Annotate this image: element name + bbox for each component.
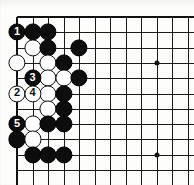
move-number-label: 1	[14, 27, 20, 38]
stone-white-move-4[interactable]: 4	[24, 85, 41, 102]
move-number-label: 4	[29, 88, 35, 99]
grid-line-vertical	[188, 17, 189, 185]
grid-line-horizontal	[17, 170, 194, 171]
move-number-label: 2	[14, 88, 20, 99]
stone-white[interactable]	[8, 54, 25, 71]
stone-black[interactable]	[70, 39, 87, 56]
stone-black[interactable]	[70, 70, 87, 87]
grid-line-vertical	[141, 17, 142, 185]
stone-black-move-1[interactable]: 1	[8, 24, 25, 41]
move-number-label: 5	[14, 118, 20, 129]
star-point	[154, 60, 159, 65]
grid-line-horizontal	[17, 139, 194, 140]
grid-line-vertical	[110, 17, 111, 185]
grid-line-vertical	[172, 17, 173, 185]
star-point	[154, 152, 159, 157]
grid-line-vertical	[95, 17, 96, 185]
stone-black[interactable]	[55, 116, 72, 133]
grid-line-vertical	[126, 17, 127, 185]
grid-line-vertical	[157, 17, 158, 185]
move-number-label: 3	[29, 72, 35, 83]
stone-black-move-5[interactable]: 5	[8, 116, 25, 133]
page-top-band	[0, 0, 194, 10]
grid-line-horizontal	[17, 16, 194, 18]
stone-black[interactable]	[55, 146, 72, 163]
go-board-diagram: 13245	[0, 0, 194, 185]
